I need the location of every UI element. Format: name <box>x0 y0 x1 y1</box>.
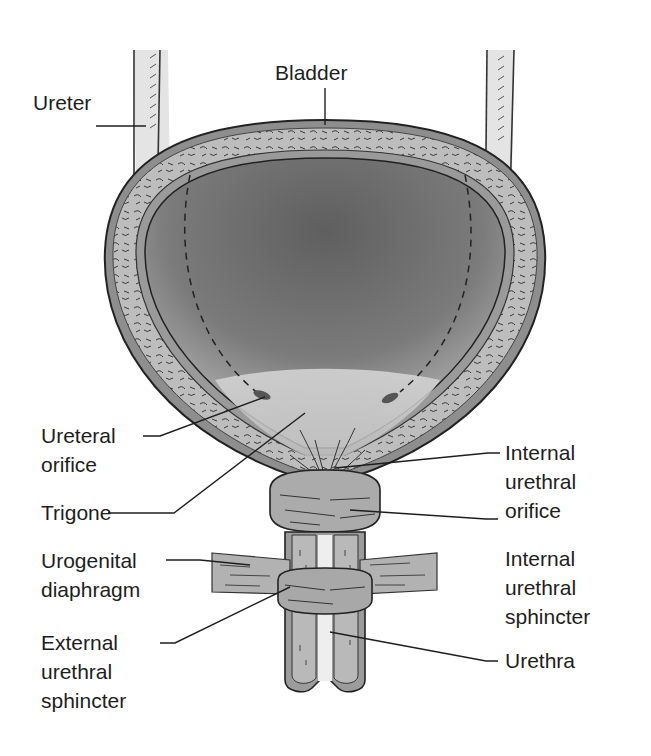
label-trigone: Trigone <box>41 501 111 524</box>
label-internal-urethral-orifice-3: orifice <box>505 499 561 522</box>
label-external-urethral-sphincter-3: sphincter <box>41 689 126 712</box>
label-ureter: Ureter <box>33 91 91 114</box>
label-external-urethral-sphincter-2: urethral <box>41 660 112 683</box>
label-ureteral-orifice-1: Ureteral <box>41 424 116 447</box>
label-internal-urethral-sphincter-2: urethral <box>505 576 576 599</box>
bladder-anatomy-diagram: Bladder Ureter Ureteral orifice Trigone … <box>0 0 651 756</box>
label-internal-urethral-sphincter-3: sphincter <box>505 605 590 628</box>
external-urethral-sphincter <box>278 568 372 614</box>
label-urethra: Urethra <box>505 649 575 672</box>
label-bladder: Bladder <box>275 61 347 84</box>
label-urogenital-diaphragm-2: diaphragm <box>41 578 140 601</box>
label-external-urethral-sphincter-1: External <box>41 631 118 654</box>
internal-urethral-sphincter <box>270 470 380 532</box>
bladder-lumen <box>145 158 505 478</box>
label-ureteral-orifice-2: orifice <box>41 453 97 476</box>
label-internal-urethral-orifice-1: Internal <box>505 441 575 464</box>
label-urogenital-diaphragm-1: Urogenital <box>41 549 137 572</box>
label-internal-urethral-orifice-2: urethral <box>505 470 576 493</box>
label-internal-urethral-sphincter-1: Internal <box>505 547 575 570</box>
